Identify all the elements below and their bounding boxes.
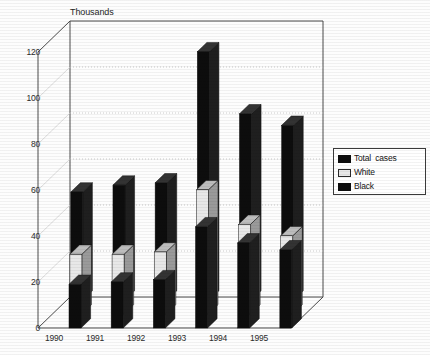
x-tick-1993: 1993 <box>160 334 194 343</box>
legend-label-black: Black <box>354 182 374 191</box>
legend-label-total-cases: Total cases <box>354 154 396 163</box>
black-swatch-icon <box>338 183 351 191</box>
x-tick-1991: 1991 <box>78 334 112 343</box>
x-tick-1990: 1990 <box>37 334 71 343</box>
legend-item-black: Black <box>338 180 421 193</box>
bar-chart-figure: Thousands 0 20 40 60 80 100 120 <box>0 0 430 355</box>
black-swatch-icon <box>338 155 351 163</box>
legend-item-white: White <box>338 166 421 179</box>
white-swatch-icon <box>338 169 351 177</box>
legend-label-white: White <box>354 168 375 177</box>
chart-legend: Total cases White Black <box>333 148 426 195</box>
x-tick-1995: 1995 <box>242 334 276 343</box>
x-tick-1992: 1992 <box>119 334 153 343</box>
x-tick-1994: 1994 <box>201 334 235 343</box>
legend-item-total-cases: Total cases <box>338 152 421 165</box>
